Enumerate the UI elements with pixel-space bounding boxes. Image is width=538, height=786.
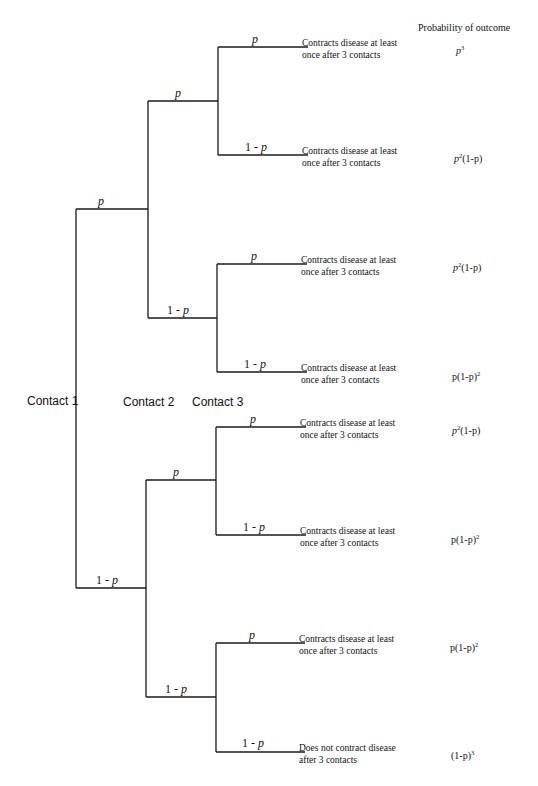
outcome-1: Contracts disease at leastonce after 3 c… [302,37,397,61]
outcome-4: Contracts disease at leastonce after 3 c… [301,362,396,386]
outcome-6: Contracts disease at leastonce after 3 c… [300,525,395,549]
contact-3-label: Contact 3 [192,396,243,408]
contact-2-label: Contact 2 [123,396,174,408]
probability-8: (1-p)3 [451,750,474,761]
probability-4: p(1-p)2 [452,371,480,382]
probability-2: p2(1-p) [454,153,482,164]
branch-label-c3-5-p: p [250,413,256,425]
probability-6: p(1-p)2 [451,534,479,545]
branch-label-c3-1-p: p [252,33,258,45]
probability-3: p2(1-p) [453,262,481,273]
branch-label-c3-7-p: p [249,629,255,641]
outcome-8: Does not contract diseaseafter 3 contact… [299,742,396,766]
branch-label-c2a-p: p [175,87,181,99]
outcome-5: Contracts disease at leastonce after 3 c… [300,417,395,441]
branch-label-c2b-1mp: 1 - p [165,683,187,695]
probability-column-header: Probability of outcome [418,23,510,33]
branch-label-c3-2-1mp: 1 - p [245,141,267,153]
probability-1: p3 [456,45,464,56]
branch-label-c2a-1mp: 1 - p [167,304,189,316]
branch-label-c2b-p: p [173,466,179,478]
probability-5: p2(1-p) [452,425,480,436]
branch-label-c3-6-1mp: 1 - p [243,521,265,533]
outcome-7: Contracts disease at leastonce after 3 c… [299,633,394,657]
probability-tree-lines [0,0,538,786]
contact-1-label: Contact 1 [27,395,78,407]
branch-label-c1-1mp: 1 - p [96,574,118,586]
branch-label-c3-3-p: p [251,250,257,262]
outcome-3: Contracts disease at leastonce after 3 c… [301,254,396,278]
outcome-2: Contracts disease at leastonce after 3 c… [302,145,397,169]
branch-label-c3-4-1mp: 1 - p [244,358,266,370]
probability-7: p(1-p)2 [450,642,478,653]
branch-label-c3-8-1mp: 1 - p [242,737,264,749]
branch-label-c1-p: p [98,195,104,207]
